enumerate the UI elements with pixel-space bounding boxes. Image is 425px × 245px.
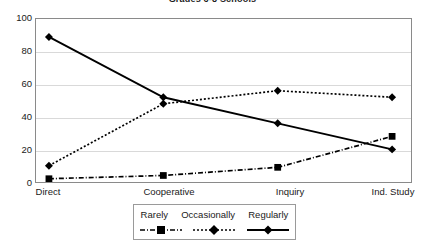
y-tick-label: 100 (2, 13, 32, 23)
y-tick-label: 20 (2, 145, 32, 155)
series-rarely (46, 133, 396, 182)
y-tick-label: 80 (2, 46, 32, 56)
data-point-marker (274, 87, 282, 95)
legend-label-rarely: Rarely (141, 209, 168, 220)
data-point-marker (46, 175, 53, 182)
series-regularly (45, 33, 396, 153)
legend-key-rarely-dash-dot-square-icon (139, 224, 183, 236)
y-tick-label: 40 (2, 112, 32, 122)
legend-label-regularly: Regularly (248, 209, 288, 220)
data-point-marker (45, 162, 53, 170)
chart-legend: Rarely Occasionally Regularly (133, 204, 296, 240)
series-line (49, 136, 392, 178)
data-point-marker (274, 164, 281, 171)
legend-key-occasionally-dotted-diamond-icon (192, 224, 236, 236)
series-line (49, 37, 392, 149)
x-tick-label-direct: Direct (36, 186, 61, 197)
x-tick-label-inquiry: Inquiry (276, 186, 305, 197)
data-point-marker (274, 119, 282, 127)
line-chart: Grades 6-8 Schools 100 80 60 40 20 0 Dir… (0, 0, 425, 245)
legend-label-occasionally: Occasionally (181, 209, 235, 220)
legend-key-regularly-solid-diamond-icon (246, 224, 290, 236)
x-tick-label-cooperative: Cooperative (143, 186, 194, 197)
series-lines (36, 19, 411, 182)
y-axis: 100 80 60 40 20 0 (0, 18, 32, 183)
data-point-marker (389, 133, 396, 140)
series-occasionally (45, 87, 396, 170)
legend-labels: Rarely Occasionally Regularly (134, 209, 295, 220)
data-point-marker (388, 145, 396, 153)
x-axis: Direct Cooperative Inquiry Ind. Study (35, 186, 412, 200)
series-line (49, 91, 392, 166)
data-point-marker (45, 33, 53, 41)
x-tick-label-ind-study: Ind. Study (372, 186, 415, 197)
y-tick-label: 60 (2, 79, 32, 89)
legend-keys (134, 224, 295, 236)
chart-title: Grades 6-8 Schools (0, 0, 425, 4)
data-point-marker (160, 172, 167, 179)
data-point-marker (159, 93, 167, 101)
y-tick-label: 0 (2, 178, 32, 188)
data-point-marker (388, 93, 396, 101)
plot-area (35, 18, 412, 183)
